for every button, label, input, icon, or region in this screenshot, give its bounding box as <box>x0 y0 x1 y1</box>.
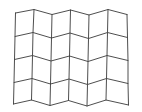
mesh-figure <box>0 0 142 112</box>
mesh-canvas <box>0 0 142 112</box>
